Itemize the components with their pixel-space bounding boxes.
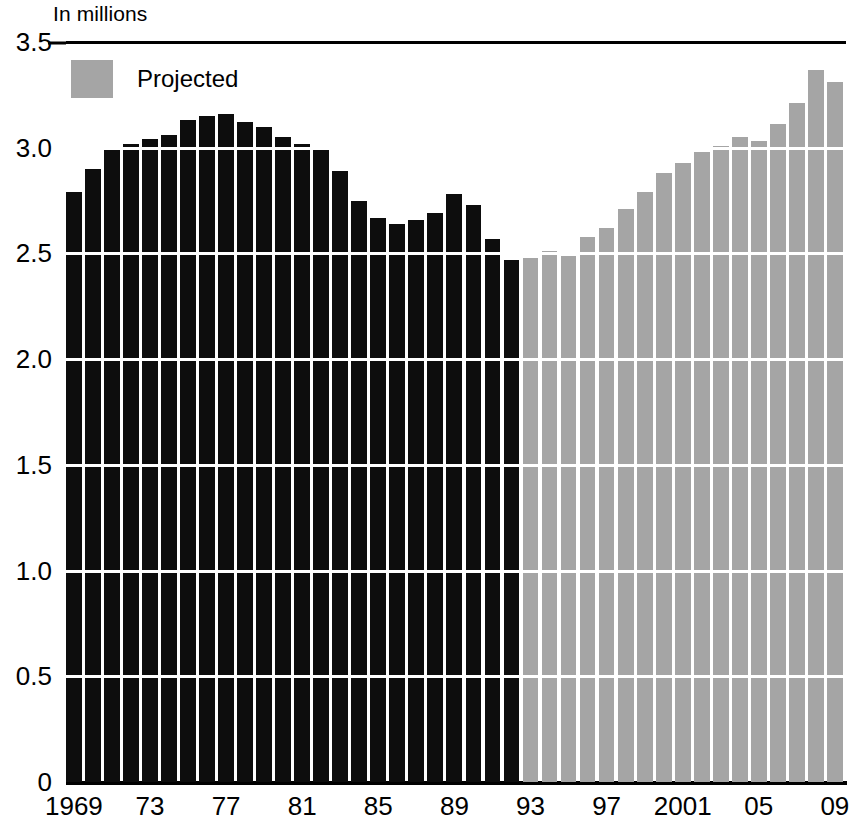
x-tick-label: 2001 — [654, 791, 712, 822]
x-tick-label: 73 — [136, 791, 165, 822]
bar-2004 — [732, 137, 748, 782]
bar-2001 — [675, 163, 691, 782]
y-tick-label: 3.0 — [16, 132, 52, 163]
y-tick-label: 0.5 — [16, 661, 52, 692]
y-tick-label: 1.0 — [16, 555, 52, 586]
bar-2009 — [827, 82, 843, 782]
bar-1997 — [599, 228, 615, 782]
x-tick-label: 81 — [288, 791, 317, 822]
legend-swatch-projected — [71, 60, 113, 98]
x-tick-label: 1969 — [45, 791, 103, 822]
x-tick-label: 97 — [592, 791, 621, 822]
bar-1989 — [446, 194, 462, 782]
x-tick-label: 85 — [364, 791, 393, 822]
bar-chart: In millions 00.51.01.52.02.53.03.5 Proje… — [0, 0, 861, 824]
bar-1975 — [180, 120, 196, 782]
bar-1976 — [199, 116, 215, 782]
x-tick-label: 05 — [744, 791, 773, 822]
legend-label-projected: Projected — [137, 65, 238, 93]
bar-1998 — [618, 209, 634, 782]
bar-1970 — [85, 169, 101, 782]
y-tick-label: 1.5 — [16, 449, 52, 480]
y-tick-label: 3.5 — [16, 27, 52, 58]
bar-1994 — [542, 251, 558, 782]
bar-1982 — [313, 148, 329, 782]
bar-1988 — [427, 213, 443, 782]
unit-caption: In millions — [53, 2, 147, 26]
bar-2008 — [808, 70, 824, 783]
bar-1974 — [161, 135, 177, 782]
bar-1983 — [332, 171, 348, 782]
bar-1981 — [294, 144, 310, 783]
bar-2007 — [789, 103, 805, 782]
y-axis-top-tick — [48, 42, 66, 45]
bar-1980 — [275, 137, 291, 782]
bar-1979 — [256, 127, 272, 782]
bar-1990 — [466, 205, 482, 782]
bar-1996 — [580, 237, 596, 782]
bar-1977 — [218, 114, 234, 782]
bar-1972 — [123, 144, 139, 783]
bar-1984 — [351, 201, 367, 782]
y-tick-label: 2.0 — [16, 344, 52, 375]
x-tick-label: 09 — [820, 791, 849, 822]
legend: Projected — [71, 60, 238, 98]
bar-1995 — [561, 256, 577, 782]
bar-1991 — [485, 239, 501, 782]
y-axis: 00.51.01.52.02.53.03.5 — [0, 0, 66, 824]
bar-1985 — [370, 218, 386, 783]
bar-2006 — [770, 124, 786, 782]
bar-1999 — [637, 192, 653, 782]
x-axis: 19697377818589939720010509 — [66, 785, 846, 824]
bar-1993 — [523, 258, 539, 782]
x-tick-label: 93 — [516, 791, 545, 822]
bar-1987 — [408, 220, 424, 782]
bar-1986 — [389, 224, 405, 782]
y-tick-label: 2.5 — [16, 238, 52, 269]
bar-2002 — [694, 152, 710, 782]
bar-1971 — [104, 150, 120, 782]
plot-area — [66, 42, 846, 782]
bar-2005 — [751, 141, 767, 782]
bar-1973 — [142, 139, 158, 782]
x-tick-label: 89 — [440, 791, 469, 822]
bar-series-group — [66, 42, 846, 782]
bar-1992 — [504, 260, 520, 782]
x-tick-label: 77 — [212, 791, 241, 822]
bar-2000 — [656, 173, 672, 782]
bar-1969 — [66, 192, 82, 782]
bar-1978 — [237, 122, 253, 782]
bar-2003 — [713, 146, 729, 782]
